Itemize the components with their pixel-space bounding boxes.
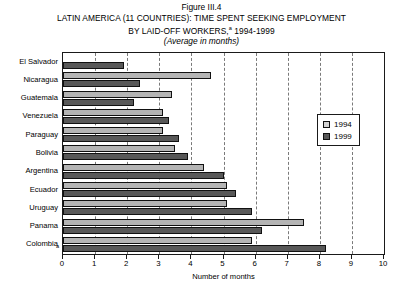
figure-title-line-2: BY LAID-OFF WORKERS,a 1994-1999 — [0, 23, 403, 36]
bar-bolivia-1999 — [63, 153, 188, 160]
bar-bolivia-1994 — [63, 145, 175, 152]
bar-guatemala-1999 — [63, 99, 134, 106]
bar-row — [63, 217, 384, 235]
x-axis-tick-labels: 012345678910 — [62, 259, 385, 270]
bar-el-salvador-1999 — [63, 62, 124, 69]
x-tick-label-7: 7 — [277, 259, 297, 269]
bar-paraguay-1999 — [63, 135, 179, 142]
x-tick-label-9: 9 — [341, 259, 361, 269]
bar-uruguay-1994 — [63, 200, 227, 207]
x-tick-label-0: 0 — [52, 259, 72, 269]
legend-item-1994: 1994 — [323, 118, 352, 130]
bar-argentina-1999 — [63, 172, 224, 179]
figure-number: Figure III.4 — [0, 2, 403, 13]
bar-colombia-1994 — [63, 237, 252, 244]
x-tick-label-6: 6 — [245, 259, 265, 269]
y-axis-label-nicaragua: Nicaragua — [0, 75, 58, 84]
bar-row — [63, 199, 384, 217]
x-tick-label-2: 2 — [116, 259, 136, 269]
y-axis-label-venezuela: Venezuela — [0, 111, 58, 120]
bar-row — [63, 181, 384, 199]
legend-swatch-1999-icon — [323, 133, 330, 140]
legend-label-1999: 1999 — [334, 132, 352, 141]
legend-swatch-1994-icon — [323, 121, 330, 128]
y-axis-label-uruguay: Uruguay — [0, 203, 58, 212]
legend-item-1999: 1999 — [323, 130, 352, 142]
y-axis-label-bolivia: Bolivia — [0, 148, 58, 157]
bar-panama-1994 — [63, 219, 304, 226]
figure-subtitle: (Average in months) — [0, 36, 403, 48]
bar-nicaragua-1994 — [63, 72, 211, 79]
plot-area: 1994 1999 — [62, 52, 385, 255]
y-axis-label-ecuador: Ecuador — [0, 185, 58, 194]
figure-title-line-1: LATIN AMERICA (11 COUNTRIES): TIME SPENT… — [0, 13, 403, 23]
bar-row — [63, 163, 384, 181]
bar-row — [63, 53, 384, 71]
y-axis-labels: El SalvadorNicaraguaGuatemalaVenezuelaPa… — [0, 52, 58, 255]
bar-rows — [63, 53, 384, 254]
bar-row — [63, 144, 384, 162]
bar-argentina-1994 — [63, 164, 204, 171]
bar-venezuela-1999 — [63, 117, 169, 124]
bar-guatemala-1994 — [63, 91, 172, 98]
y-axis-label-panama: Panama — [0, 221, 58, 230]
bar-uruguay-1999 — [63, 208, 252, 215]
x-tick-label-8: 8 — [309, 259, 329, 269]
y-axis-label-argentina: Argentina — [0, 166, 58, 175]
bar-panama-1999 — [63, 227, 262, 234]
bar-nicaragua-1999 — [63, 80, 140, 87]
bar-ecuador-1994 — [63, 182, 227, 189]
bar-ecuador-1999 — [63, 190, 236, 197]
bar-paraguay-1994 — [63, 127, 163, 134]
y-axis-label-paraguay: Paraguay — [0, 130, 58, 139]
legend: 1994 1999 — [317, 114, 360, 146]
bar-row — [63, 71, 384, 89]
y-axis-label-el-salvador: El Salvador — [0, 57, 58, 66]
x-tick-label-5: 5 — [213, 259, 233, 269]
y-axis-label-guatemala: Guatemala — [0, 93, 58, 102]
figure-title-line-2-text: BY LAID-OFF WORKERS, — [128, 26, 228, 36]
bar-colombia-1999 — [63, 245, 326, 252]
bar-venezuela-1994 — [63, 109, 163, 116]
figure-title-years: 1994-1999 — [232, 26, 275, 36]
legend-label-1994: 1994 — [334, 120, 352, 129]
x-tick-label-1: 1 — [84, 259, 104, 269]
plot-footnote-marker: a — [56, 243, 59, 249]
bar-row — [63, 236, 384, 254]
y-axis-label-colombia: Colombia — [0, 239, 58, 248]
x-tick-label-4: 4 — [180, 259, 200, 269]
figure-container: Figure III.4 LATIN AMERICA (11 COUNTRIES… — [0, 0, 403, 287]
x-tick-label-10: 10 — [373, 259, 393, 269]
x-tick-label-3: 3 — [148, 259, 168, 269]
x-axis-title: Number of months — [62, 272, 385, 281]
bar-row — [63, 90, 384, 108]
figure-title-block: Figure III.4 LATIN AMERICA (11 COUNTRIES… — [0, 2, 403, 48]
